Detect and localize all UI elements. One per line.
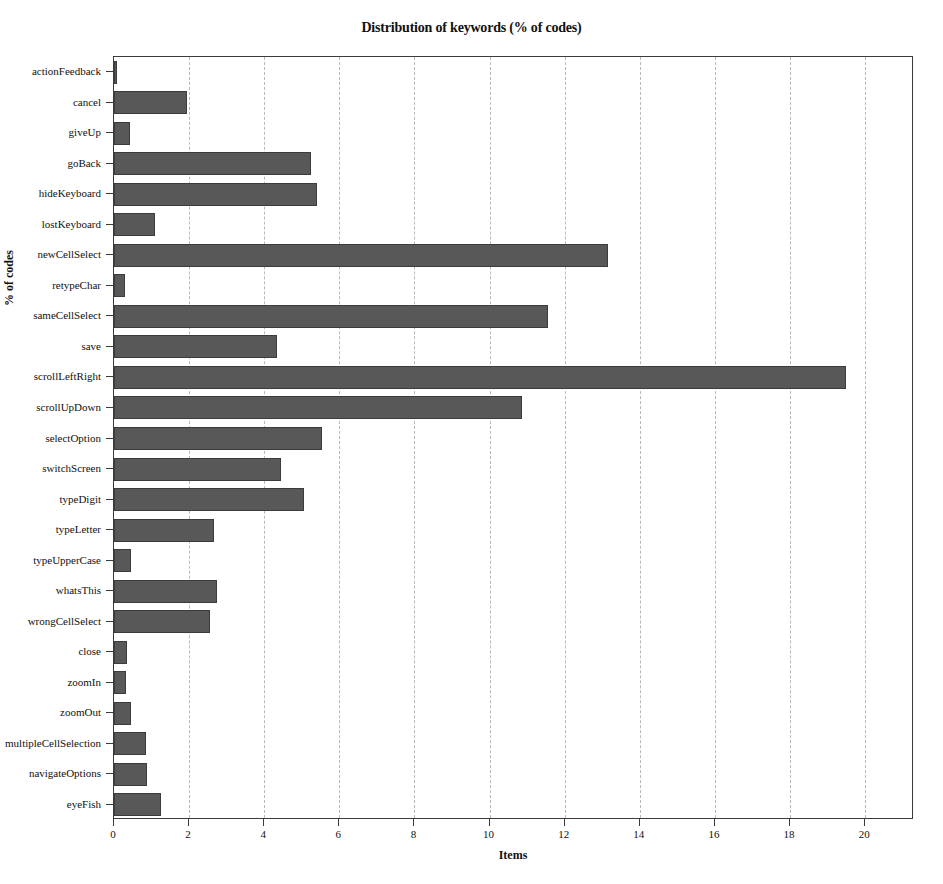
y-tick-label-wrongCellSelect: wrongCellSelect — [0, 615, 101, 627]
bar-hideKeyboard — [114, 183, 317, 206]
y-tick-label-scrollUpDown: scrollUpDown — [0, 401, 101, 413]
y-tick-label-selectOption: selectOption — [0, 432, 101, 444]
bar-row — [114, 545, 131, 576]
bar-row — [114, 515, 214, 546]
bar-row — [114, 301, 548, 332]
gridline-x-6 — [339, 57, 340, 818]
y-tick-label-save: save — [0, 340, 101, 352]
bar-lostKeyboard — [114, 213, 155, 236]
y-tick-label-typeUpperCase: typeUpperCase — [0, 554, 101, 566]
y-tick-mark — [106, 529, 113, 530]
x-tick-mark-18 — [789, 819, 790, 826]
gridline-x-18 — [790, 57, 791, 818]
y-axis-tick-labels: actionFeedbackcancelgiveUpgoBackhideKeyb… — [0, 56, 113, 819]
y-tick-mark — [106, 407, 113, 408]
y-tick-mark — [106, 651, 113, 652]
bar-navigateOptions — [114, 763, 147, 786]
y-tick-label-actionFeedback: actionFeedback — [0, 65, 101, 77]
y-tick-mark — [106, 682, 113, 683]
y-tick-label-switchScreen: switchScreen — [0, 462, 101, 474]
y-tick-label-typeDigit: typeDigit — [0, 493, 101, 505]
y-tick-mark — [106, 71, 113, 72]
chart-title: Distribution of keywords (% of codes) — [0, 20, 943, 36]
bar-zoomIn — [114, 671, 126, 694]
x-tick-mark-6 — [338, 819, 339, 826]
bar-close — [114, 641, 127, 664]
bar-row — [114, 789, 161, 820]
bar-multipleCellSelection — [114, 732, 146, 755]
x-tick-label-20: 20 — [844, 828, 884, 840]
y-tick-label-eyeFish: eyeFish — [0, 798, 101, 810]
bar-actionFeedback — [114, 61, 117, 84]
y-tick-label-scrollLeftRight: scrollLeftRight — [0, 370, 101, 382]
bar-selectOption — [114, 427, 322, 450]
x-axis-label: Items — [113, 848, 913, 863]
bar-row — [114, 576, 217, 607]
x-tick-label-8: 8 — [393, 828, 433, 840]
x-tick-mark-8 — [413, 819, 414, 826]
y-tick-mark — [106, 376, 113, 377]
y-tick-mark — [106, 773, 113, 774]
bar-row — [114, 149, 311, 180]
gridline-x-14 — [640, 57, 641, 818]
gridline-x-16 — [715, 57, 716, 818]
x-tick-label-12: 12 — [544, 828, 584, 840]
bar-scrollUpDown — [114, 396, 522, 419]
bar-eyeFish — [114, 793, 161, 816]
y-tick-mark — [106, 590, 113, 591]
bar-sameCellSelect — [114, 305, 548, 328]
y-tick-mark — [106, 712, 113, 713]
y-tick-label-newCellSelect: newCellSelect — [0, 248, 101, 260]
y-tick-mark — [106, 254, 113, 255]
x-tick-mark-0 — [113, 819, 114, 826]
y-tick-mark — [106, 315, 113, 316]
bar-goBack — [114, 152, 311, 175]
y-tick-label-typeLetter: typeLetter — [0, 523, 101, 535]
bar-newCellSelect — [114, 244, 608, 267]
bar-row — [114, 606, 210, 637]
x-axis-tick-labels: 02468101214161820 — [113, 819, 913, 849]
bar-row — [114, 332, 277, 363]
x-tick-label-6: 6 — [318, 828, 358, 840]
bar-row — [114, 484, 304, 515]
y-tick-mark — [106, 224, 113, 225]
y-tick-label-goBack: goBack — [0, 157, 101, 169]
gridline-x-20 — [865, 57, 866, 818]
bar-retypeChar — [114, 274, 125, 297]
y-tick-mark — [106, 560, 113, 561]
y-tick-mark — [106, 468, 113, 469]
y-tick-mark — [106, 621, 113, 622]
y-tick-label-lostKeyboard: lostKeyboard — [0, 218, 101, 230]
bar-zoomOut — [114, 702, 131, 725]
bar-row — [114, 210, 155, 241]
bar-giveUp — [114, 122, 130, 145]
y-tick-mark — [106, 102, 113, 103]
bar-row — [114, 88, 187, 119]
gridline-x-10 — [490, 57, 491, 818]
y-tick-mark — [106, 743, 113, 744]
y-tick-label-zoomOut: zoomOut — [0, 706, 101, 718]
y-tick-label-sameCellSelect: sameCellSelect — [0, 309, 101, 321]
y-tick-label-zoomIn: zoomIn — [0, 676, 101, 688]
x-tick-label-2: 2 — [168, 828, 208, 840]
y-tick-label-cancel: cancel — [0, 96, 101, 108]
bar-row — [114, 179, 317, 210]
bar-typeUpperCase — [114, 549, 131, 572]
y-tick-label-hideKeyboard: hideKeyboard — [0, 187, 101, 199]
gridline-x-8 — [414, 57, 415, 818]
y-tick-label-retypeChar: retypeChar — [0, 279, 101, 291]
y-tick-label-whatsThis: whatsThis — [0, 584, 101, 596]
y-tick-label-navigateOptions: navigateOptions — [0, 767, 101, 779]
x-tick-label-4: 4 — [243, 828, 283, 840]
bar-row — [114, 393, 522, 424]
x-tick-mark-2 — [188, 819, 189, 826]
plot-area — [113, 56, 913, 819]
chart-figure: Distribution of keywords (% of codes) % … — [0, 0, 943, 884]
x-tick-label-10: 10 — [469, 828, 509, 840]
bar-save — [114, 335, 277, 358]
bar-row — [114, 271, 125, 302]
x-tick-label-0: 0 — [93, 828, 133, 840]
y-tick-label-giveUp: giveUp — [0, 126, 101, 138]
x-tick-mark-20 — [864, 819, 865, 826]
bar-row — [114, 118, 130, 149]
